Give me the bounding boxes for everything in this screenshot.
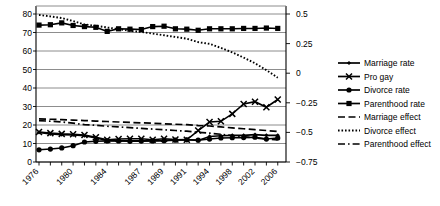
right-tick-label: 0 xyxy=(296,68,301,78)
marker-circle xyxy=(139,138,144,143)
legend-label: Marriage rate xyxy=(364,58,415,68)
marker-square xyxy=(150,24,155,29)
right-tick-label: 0.5 xyxy=(296,9,308,19)
line-chart: 01020304050607080 0.50.250−0.25−0.5−0.75… xyxy=(0,0,440,206)
marker-circle xyxy=(173,138,178,143)
legend-label: Parenthood effect xyxy=(364,139,432,149)
marker-circle xyxy=(196,138,201,143)
marker-circle xyxy=(116,138,121,143)
marker-circle xyxy=(184,137,189,142)
marker-square xyxy=(196,28,201,33)
marker-circle xyxy=(105,138,110,143)
marker-circle xyxy=(36,147,41,152)
marker-circle xyxy=(346,87,351,92)
marker-square xyxy=(252,26,257,31)
marker-square xyxy=(207,26,212,31)
marker-square xyxy=(59,20,64,25)
marker-square xyxy=(184,27,189,32)
marker-square xyxy=(161,24,166,29)
legend-label: Divorce rate xyxy=(364,85,410,95)
marker-circle xyxy=(127,139,132,144)
marker-circle xyxy=(150,138,155,143)
left-tick-label: 0 xyxy=(27,157,32,167)
marker-circle xyxy=(82,139,87,144)
left-tick-label: 80 xyxy=(23,9,33,19)
marker-square xyxy=(173,26,178,31)
marker-circle xyxy=(93,139,98,144)
legend-label: Parenthood rate xyxy=(364,99,425,109)
marker-circle xyxy=(48,146,53,151)
left-tick-label: 60 xyxy=(23,46,33,56)
left-axis-tick-labels: 01020304050607080 xyxy=(23,9,36,167)
marker-circle xyxy=(71,143,76,148)
marker-square xyxy=(275,26,280,31)
marker-square xyxy=(230,26,235,31)
left-tick-label: 70 xyxy=(23,28,33,38)
marker-square xyxy=(264,25,269,30)
marker-square xyxy=(36,23,41,28)
right-tick-label: 0.25 xyxy=(296,39,313,49)
left-tick-label: 50 xyxy=(23,65,33,75)
marker-square xyxy=(346,101,351,106)
marker-circle xyxy=(218,135,223,140)
left-tick-label: 10 xyxy=(23,139,33,149)
marker-square xyxy=(218,26,223,31)
legend-label: Divorce effect xyxy=(364,126,416,136)
marker-square xyxy=(71,23,76,28)
right-tick-label: −0.75 xyxy=(296,157,318,167)
marker-square xyxy=(105,29,110,34)
marker-square xyxy=(48,22,53,27)
marker-circle xyxy=(59,145,64,150)
right-tick-label: −0.25 xyxy=(296,98,318,108)
right-tick-label: −0.5 xyxy=(296,127,313,137)
left-tick-label: 30 xyxy=(23,102,33,112)
chart-container: 01020304050607080 0.50.250−0.25−0.5−0.75… xyxy=(0,0,440,206)
left-tick-label: 40 xyxy=(23,83,33,93)
left-tick-label: 20 xyxy=(23,120,33,130)
legend-label: Pro gay xyxy=(364,72,394,82)
marker-circle xyxy=(161,138,166,143)
marker-square xyxy=(241,26,246,31)
legend-label: Marriage effect xyxy=(364,112,421,122)
marker-circle xyxy=(207,136,212,141)
